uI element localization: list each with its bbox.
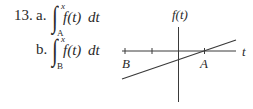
t-axis-label: t (242, 45, 246, 58)
f-axis-label: f(t) (172, 8, 188, 21)
point-B-label: B (122, 57, 130, 70)
graph-svg (0, 0, 253, 109)
point-A-label: A (200, 57, 208, 70)
